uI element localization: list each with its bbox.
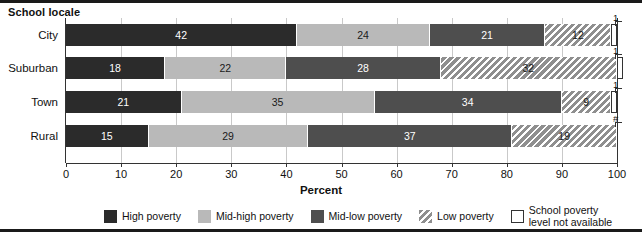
bar-segment-low: 12	[545, 24, 611, 46]
bottom-rule	[0, 229, 642, 232]
bar-row: 42242112	[66, 24, 617, 46]
plot-area: 4224211218222832213534915293719 111#	[66, 18, 617, 163]
x-tick-label-70: 70	[446, 168, 458, 180]
bar-value-label: 21	[117, 97, 131, 108]
callout-leader	[615, 122, 622, 127]
callout-leader	[615, 54, 622, 59]
x-tick-90	[562, 163, 563, 167]
bar-segment-midhigh: 22	[165, 57, 286, 79]
x-tick-label-80: 80	[501, 168, 513, 180]
legend-label: Mid-high poverty	[216, 210, 294, 222]
legend-item-high[interactable]: High poverty	[104, 210, 181, 223]
legend-swatch-high-icon	[104, 210, 117, 223]
legend: High povertyMid-high povertyMid-low pove…	[104, 204, 629, 228]
x-tick-label-60: 60	[390, 168, 402, 180]
bar-segment-midhigh: 24	[297, 24, 429, 46]
bar-value-label: 21	[480, 30, 494, 41]
bar-segment-midlow: 34	[375, 91, 562, 113]
legend-swatch-midlow-icon	[311, 210, 324, 223]
legend-swatch-low-icon	[419, 210, 432, 223]
legend-label: School poverty level not available	[529, 204, 612, 228]
bar-value-label: 22	[218, 63, 232, 74]
legend-item-midlow[interactable]: Mid-low poverty	[311, 210, 403, 223]
legend-item-low[interactable]: Low poverty	[419, 210, 494, 223]
x-tick-100	[617, 163, 618, 167]
x-tick-label-10: 10	[115, 168, 127, 180]
bar-value-label: 18	[108, 63, 122, 74]
bar-segment-high: 21	[66, 91, 182, 113]
bar-value-label: 29	[221, 131, 235, 142]
category-label-rural: Rural	[0, 130, 58, 142]
bar-value-label: 32	[521, 63, 535, 74]
bar-value-label: 37	[403, 131, 417, 142]
x-tick-60	[397, 163, 398, 167]
legend-label: Low poverty	[437, 210, 494, 222]
x-axis-label: Percent	[0, 184, 642, 196]
bar-segment-midhigh: 35	[182, 91, 375, 113]
callout-leader	[615, 88, 622, 93]
x-tick-40	[286, 163, 287, 167]
bar-value-label: 9	[582, 97, 590, 108]
bar-row: 18222832	[66, 57, 617, 79]
bar-value-label: 12	[571, 30, 585, 41]
x-tick-label-50: 50	[335, 168, 347, 180]
bar-segment-midhigh: 29	[149, 125, 309, 147]
bar-row: 2135349	[66, 91, 617, 113]
category-label-town: Town	[0, 96, 58, 108]
bar-value-label: 28	[356, 63, 370, 74]
y-axis-title: School locale	[8, 6, 80, 18]
legend-label: Mid-low poverty	[329, 210, 403, 222]
x-tick-label-90: 90	[556, 168, 568, 180]
category-label-city: City	[0, 29, 58, 41]
legend-item-na[interactable]: School poverty level not available	[511, 204, 612, 228]
x-tick-20	[176, 163, 177, 167]
x-tick-label-100: 100	[608, 168, 626, 180]
x-tick-label-0: 0	[63, 168, 69, 180]
callout-leader	[615, 21, 622, 26]
bar-row: 15293719	[66, 125, 617, 147]
bar-value-label: 15	[100, 131, 114, 142]
x-tick-label-30: 30	[225, 168, 237, 180]
bar-segment-na	[611, 91, 617, 113]
top-rule	[0, 0, 642, 3]
bar-segment-low: 32	[441, 57, 617, 79]
bar-segment-low: 9	[562, 91, 612, 113]
x-tick-30	[231, 163, 232, 167]
bar-value-label: 35	[271, 97, 285, 108]
legend-swatch-midhigh-icon	[198, 210, 211, 223]
bar-segment-high: 15	[66, 125, 149, 147]
bar-value-label: 42	[174, 30, 188, 41]
legend-swatch-na-icon	[511, 210, 524, 223]
bar-value-label: 19	[557, 131, 571, 142]
category-label-suburban: Suburban	[0, 62, 58, 74]
x-tick-50	[342, 163, 343, 167]
legend-label: High poverty	[122, 210, 181, 222]
bar-segment-midlow: 21	[430, 24, 546, 46]
bar-value-label: 24	[356, 30, 370, 41]
x-tick-label-40: 40	[280, 168, 292, 180]
x-tick-70	[452, 163, 453, 167]
x-tick-80	[507, 163, 508, 167]
legend-item-midhigh[interactable]: Mid-high poverty	[198, 210, 294, 223]
bar-segment-high: 42	[66, 24, 297, 46]
bar-value-label: 34	[461, 97, 475, 108]
x-tick-label-20: 20	[170, 168, 182, 180]
chart-root: School locale 42242112182228322135349152…	[0, 0, 642, 232]
x-tick-10	[121, 163, 122, 167]
bar-segment-na	[611, 24, 617, 46]
bar-segment-low: 19	[512, 125, 617, 147]
bar-segment-midlow: 37	[308, 125, 512, 147]
bar-segment-na	[617, 57, 623, 79]
bar-segment-high: 18	[66, 57, 165, 79]
x-tick-0	[66, 163, 67, 167]
bar-segment-midlow: 28	[286, 57, 440, 79]
